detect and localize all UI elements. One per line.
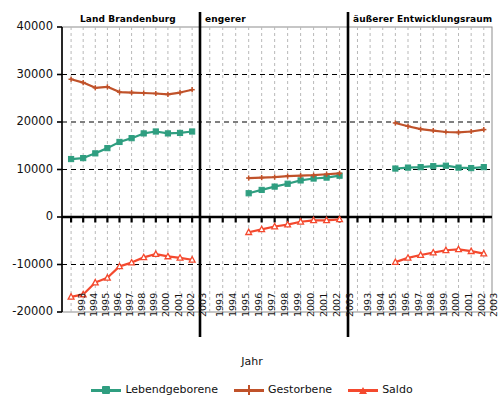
- panel-aeusserer-title: äußerer Entwicklungsraum: [353, 14, 492, 24]
- legend-gestorbene-swatch: [234, 385, 264, 395]
- chart-plot-area: [0, 0, 504, 409]
- x-tick-1999-p1: 1999: [292, 293, 303, 317]
- y-tick-20000: 20000: [16, 114, 53, 128]
- x-tick-2003-p1: 2003: [344, 293, 355, 317]
- x-tick-1999-p2: 1999: [438, 293, 449, 317]
- legend-lebendgeborene-swatch: [91, 385, 121, 395]
- x-tick-1995-p0: 1995: [100, 293, 111, 317]
- x-tick-2001-p1: 2001: [318, 293, 329, 317]
- x-tick-1997-p2: 1997: [413, 293, 424, 317]
- x-tick-2000-p1: 2000: [305, 293, 316, 317]
- x-axis-title: Jahr: [0, 355, 504, 368]
- y-tick-0: 0: [46, 209, 53, 223]
- x-tick-1996-p1: 1996: [253, 293, 264, 317]
- x-tick-1998-p1: 1998: [279, 293, 290, 317]
- legend-gestorbene-label: Gestorbene: [268, 383, 332, 396]
- x-tick-2003-p0: 2003: [197, 293, 208, 317]
- x-tick-1994-p2: 1994: [375, 293, 386, 317]
- x-tick-1994-p1: 1994: [227, 293, 238, 317]
- x-tick-2000-p2: 2000: [450, 293, 461, 317]
- x-tick-1995-p2: 1995: [387, 293, 398, 317]
- x-tick-1997-p0: 1997: [124, 293, 135, 317]
- legend-lebendgeborene-label: Lebendgeborene: [125, 383, 218, 396]
- x-tick-1998-p0: 1998: [136, 293, 147, 317]
- x-tick-2002-p1: 2002: [331, 293, 342, 317]
- legend-gestorbene[interactable]: Gestorbene: [234, 383, 332, 396]
- panel-land-brandenburg-title: Land Brandenburg: [80, 14, 176, 24]
- y-tick-30000: 30000: [16, 67, 53, 81]
- y-tick-40000: 40000: [16, 19, 53, 33]
- chart-legend: LebendgeboreneGestorbeneSaldo: [0, 383, 504, 396]
- y-tick-10000: 10000: [16, 162, 53, 176]
- x-tick-1994-p0: 1994: [88, 293, 99, 317]
- y-tick-neg10000: -10000: [12, 257, 53, 271]
- x-tick-2000-p0: 2000: [160, 293, 171, 317]
- legend-lebendgeborene[interactable]: Lebendgeborene: [91, 383, 218, 396]
- x-tick-1995-p1: 1995: [240, 293, 251, 317]
- x-tick-1997-p1: 1997: [266, 293, 277, 317]
- x-tick-1999-p0: 1999: [148, 293, 159, 317]
- x-tick-1993-p2: 1993: [362, 293, 373, 317]
- x-tick-2003-p2: 2003: [488, 293, 499, 317]
- panel-engerer-title: engerer: [205, 14, 246, 24]
- x-tick-2002-p2: 2002: [476, 293, 487, 317]
- x-tick-1996-p0: 1996: [112, 293, 123, 317]
- legend-saldo-label: Saldo: [382, 383, 413, 396]
- x-tick-1993-p1: 1993: [214, 293, 225, 317]
- x-tick-2001-p0: 2001: [173, 293, 184, 317]
- y-tick-neg20000: -20000: [12, 304, 53, 318]
- x-tick-1998-p2: 1998: [425, 293, 436, 317]
- legend-saldo[interactable]: Saldo: [348, 383, 413, 396]
- x-tick-1993-p0: 1993: [76, 293, 87, 317]
- chart-figure: 400003000020000100000-10000-20000 Land B…: [0, 0, 504, 409]
- x-tick-2002-p0: 2002: [185, 293, 196, 317]
- x-tick-1996-p2: 1996: [400, 293, 411, 317]
- x-tick-2001-p2: 2001: [463, 293, 474, 317]
- legend-saldo-swatch: [348, 385, 378, 395]
